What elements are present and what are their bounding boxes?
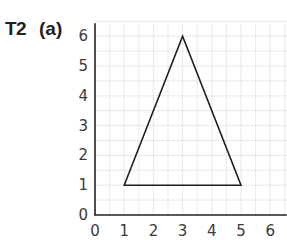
x-axis-tick-labels: 0123456 [90, 222, 275, 240]
x-tick-label: 2 [149, 222, 159, 240]
y-tick-label: 3 [78, 117, 88, 135]
y-tick-label: 6 [78, 27, 88, 45]
x-tick-label: 5 [236, 222, 246, 240]
y-axis-tick-labels: 0123456 [78, 27, 88, 224]
y-tick-label: 2 [78, 146, 88, 164]
y-tick-label: 5 [78, 57, 88, 75]
y-tick-label: 4 [78, 87, 88, 105]
y-tick-label: 0 [78, 206, 88, 224]
x-tick-label: 3 [178, 222, 188, 240]
x-tick-label: 0 [90, 222, 100, 240]
coordinate-grid: 0123456 0123456 [0, 0, 287, 240]
x-tick-label: 4 [207, 222, 217, 240]
x-tick-label: 6 [265, 222, 275, 240]
axes [94, 23, 287, 215]
y-tick-label: 1 [78, 176, 88, 194]
x-tick-label: 1 [119, 222, 129, 240]
